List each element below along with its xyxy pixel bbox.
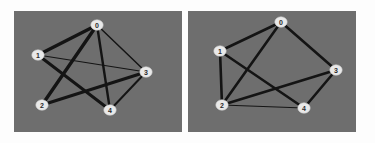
node-label: 3 — [334, 67, 338, 74]
left-graph-panel: 01234 — [14, 11, 182, 132]
graph-edge — [281, 22, 336, 70]
node-group: 01234 — [214, 17, 342, 113]
edge-group — [220, 22, 336, 108]
graph-node: 2 — [36, 100, 48, 110]
node-label: 2 — [220, 102, 224, 109]
node-label: 2 — [40, 102, 44, 109]
node-label: 0 — [279, 19, 283, 26]
node-label: 1 — [218, 48, 222, 55]
edge-group — [38, 25, 146, 110]
graph-node: 0 — [91, 20, 103, 30]
left-graph-canvas: 01234 — [14, 11, 182, 132]
graph-node: 3 — [330, 65, 342, 75]
graph-node: 1 — [32, 50, 44, 60]
graph-figure: 01234 01234 — [0, 0, 375, 143]
graph-edge — [220, 51, 304, 108]
graph-node: 0 — [275, 17, 287, 27]
graph-node: 1 — [214, 46, 226, 56]
right-graph-panel: 01234 — [188, 11, 356, 132]
node-label: 4 — [302, 105, 306, 112]
graph-node: 3 — [140, 67, 152, 77]
graph-edge — [222, 105, 304, 108]
right-graph-canvas: 01234 — [188, 11, 356, 132]
node-label: 3 — [144, 69, 148, 76]
graph-edge — [222, 22, 281, 105]
node-label: 1 — [36, 52, 40, 59]
graph-node: 2 — [216, 100, 228, 110]
graph-edge — [38, 55, 146, 72]
node-label: 4 — [108, 107, 112, 114]
graph-node: 4 — [298, 103, 310, 113]
node-label: 0 — [95, 22, 99, 29]
graph-edge — [222, 70, 336, 105]
graph-node: 4 — [104, 105, 116, 115]
graph-edge — [220, 51, 222, 105]
graph-edge — [97, 25, 110, 110]
